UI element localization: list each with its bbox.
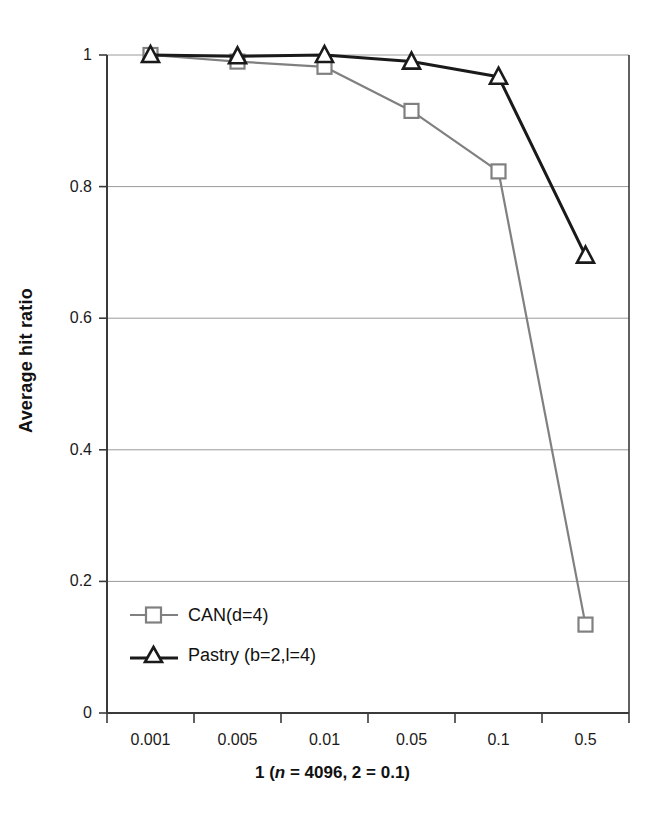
series-pastry-line <box>151 55 586 256</box>
chart-legend: CAN(d=4) Pastry (b=2,l=4) <box>128 595 316 675</box>
series-pastry-markers <box>142 46 594 263</box>
x-tick-label-0.001: 0.001 <box>130 731 170 749</box>
x-tick-label-0.05: 0.05 <box>396 731 427 749</box>
y-tick-label-0: 0 <box>40 704 92 722</box>
y-tick-label-0.2: 0.2 <box>40 572 92 590</box>
series-pastry <box>142 46 594 263</box>
data-point <box>492 164 506 178</box>
y-tick-label-1: 1 <box>40 46 92 64</box>
data-point <box>577 247 594 263</box>
legend-key-triangle-icon <box>128 643 180 667</box>
x-axis-title-post: = 4096, 2 = 0.1) <box>285 763 410 782</box>
legend-label-pastry: Pastry (b=2,l=4) <box>188 645 316 666</box>
line-chart-plot <box>0 0 665 833</box>
x-axis-title-italic: n <box>275 763 285 782</box>
series-can-line <box>151 55 586 625</box>
x-axis-title-pre: 1 ( <box>255 763 275 782</box>
data-point <box>405 104 419 118</box>
x-tick-marks <box>107 713 629 723</box>
x-tick-label-0.5: 0.5 <box>574 731 596 749</box>
x-tick-label-0.1: 0.1 <box>487 731 509 749</box>
series-can-markers <box>144 48 593 632</box>
legend-label-can: CAN(d=4) <box>188 605 269 626</box>
legend-key-square-icon <box>128 603 180 627</box>
chart-figure: Average hit ratio 0 0.2 0.4 0.6 0.8 1 0.… <box>0 0 665 833</box>
legend-item-can: CAN(d=4) <box>128 595 316 635</box>
legend-item-pastry: Pastry (b=2,l=4) <box>128 635 316 675</box>
y-tick-label-0.8: 0.8 <box>40 178 92 196</box>
gridlines <box>107 55 629 581</box>
y-tick-marks <box>99 55 107 713</box>
y-tick-label-0.6: 0.6 <box>40 309 92 327</box>
x-tick-label-0.005: 0.005 <box>217 731 257 749</box>
x-axis-title: 1 (n = 4096, 2 = 0.1) <box>0 763 665 783</box>
data-point <box>579 618 593 632</box>
y-tick-label-0.4: 0.4 <box>40 441 92 459</box>
x-tick-label-0.01: 0.01 <box>309 731 340 749</box>
series-can <box>144 48 593 632</box>
